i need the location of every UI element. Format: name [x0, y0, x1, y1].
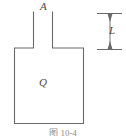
figure-drawing — [0, 0, 126, 136]
figure-container: A Q L 图 10-4 — [0, 0, 126, 136]
label-neck-area: A — [40, 1, 47, 12]
label-neck-length: L — [109, 25, 115, 36]
label-body-heat: Q — [39, 77, 47, 88]
arrowhead-down-icon — [108, 14, 113, 22]
arrowhead-up-icon — [108, 41, 113, 49]
vessel-body-and-neck-path — [15, 12, 84, 124]
figure-caption: 图 10-4 — [0, 128, 126, 136]
vessel-outline — [15, 12, 84, 124]
